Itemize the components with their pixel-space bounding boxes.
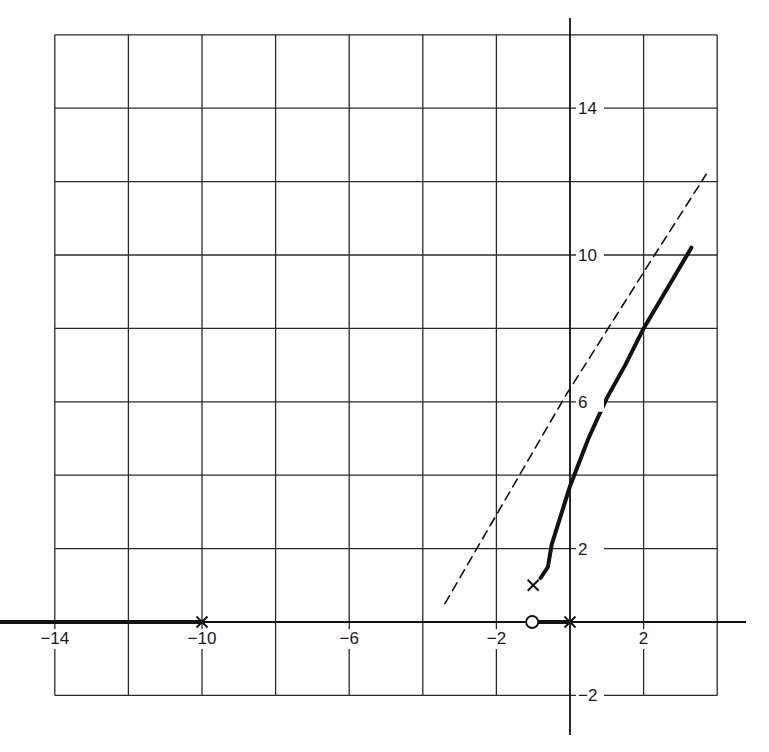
- axes: [22, 18, 746, 735]
- x-tick-label: −14: [40, 629, 69, 648]
- locus-branch: [541, 248, 692, 578]
- pole-x-icon: [528, 580, 539, 591]
- zero-circle-icon: [526, 616, 538, 628]
- x-tick-labels: −14−10−6−22: [39, 629, 660, 649]
- pole-zero-markers: [197, 580, 576, 628]
- x-tick-label: 2: [639, 629, 648, 648]
- y-tick-label: −2: [578, 686, 597, 705]
- x-tick-label: −2: [487, 629, 506, 648]
- asymptote-line: [445, 174, 706, 603]
- y-tick-label: 2: [578, 540, 587, 559]
- root-locus-plot: −14−10−6−22 141062−2: [0, 0, 769, 752]
- y-tick-label: 10: [578, 246, 597, 265]
- y-tick-label: 14: [578, 99, 597, 118]
- y-tick-label: 6: [578, 393, 587, 412]
- x-tick-label: −10: [188, 629, 217, 648]
- y-tick-labels: 141062−2: [576, 99, 604, 705]
- grid: [55, 35, 717, 696]
- x-tick-label: −6: [340, 629, 359, 648]
